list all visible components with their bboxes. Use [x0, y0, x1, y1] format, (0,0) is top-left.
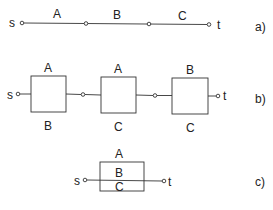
label-s-b: s	[7, 88, 13, 102]
block-c-top: A	[115, 147, 123, 161]
label-t-c: t	[168, 175, 172, 189]
label-s-c: s	[74, 174, 80, 188]
label-s-a: s	[9, 16, 15, 30]
block-2-top: A	[114, 62, 122, 76]
block-2	[101, 77, 136, 113]
node-s	[20, 21, 24, 25]
panel-b	[16, 76, 220, 114]
edge-label-b: B	[113, 8, 121, 22]
block-2-bottom: C	[114, 120, 123, 134]
label-t-b: t	[223, 89, 227, 103]
block-c-bottom: C	[115, 180, 124, 194]
block-3-top: B	[186, 63, 194, 77]
block-3	[172, 78, 208, 114]
panel-tag-b: b)	[255, 92, 266, 106]
block-c-middle: B	[115, 166, 123, 180]
edge-label-a: A	[53, 7, 61, 21]
node-t	[207, 23, 211, 27]
diagram-canvas: s A B C t a) s A B A C B C t b) s A B C …	[0, 0, 273, 210]
block-1-top: A	[44, 61, 52, 75]
node-1	[84, 22, 88, 26]
panel-c	[83, 162, 166, 191]
panel-tag-c: c)	[255, 175, 265, 189]
edge-label-c: C	[178, 9, 187, 23]
block-1-bottom: B	[44, 119, 52, 133]
node-2	[147, 22, 151, 26]
block-1	[31, 76, 66, 112]
block-3-bottom: C	[186, 121, 195, 135]
label-t-a: t	[217, 18, 221, 32]
panel-tag-a: a)	[255, 20, 266, 34]
